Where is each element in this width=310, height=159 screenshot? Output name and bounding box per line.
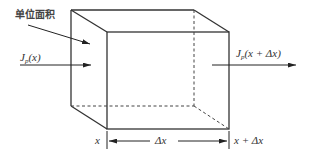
- flux-out-label: Jp(x + Δx): [236, 48, 281, 61]
- x-right-label: x + Δx: [234, 135, 263, 146]
- flux-out-argument: (x + Δx): [244, 47, 280, 59]
- box-hidden-edges: [71, 10, 229, 129]
- flux-in-label: Jp(x): [20, 52, 41, 65]
- unit-area-label: 单位面积: [15, 10, 55, 20]
- unit-area-pointer: [28, 25, 90, 44]
- flux-in-argument: (x): [28, 51, 40, 63]
- delta-x-label: Δx: [155, 135, 166, 146]
- box-solid-edges: [71, 10, 229, 129]
- dimension-line: [107, 131, 229, 149]
- x-left-label: x: [95, 135, 100, 146]
